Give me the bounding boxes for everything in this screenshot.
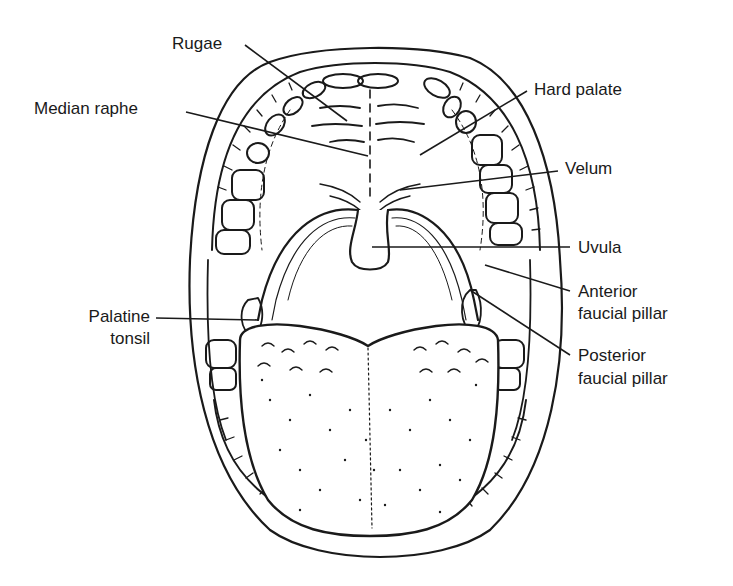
leader-anterior-pillar	[485, 265, 570, 291]
leader-hard-palate	[420, 91, 527, 155]
label-posterior-faucial-pillar-line1: Posterior	[578, 346, 646, 365]
label-rugae: Rugae	[172, 34, 222, 53]
leader-rugae	[245, 45, 347, 121]
label-palatine-tonsil-line2: tonsil	[60, 329, 150, 348]
leader-palatine-tonsil	[156, 318, 258, 320]
label-velum: Velum	[565, 159, 612, 178]
label-anterior-faucial-pillar-line1: Anterior	[578, 282, 638, 301]
oral-cavity-diagram: Rugae Median raphe Hard palate Velum Uvu…	[0, 0, 733, 586]
label-anterior-faucial-pillar-line2: faucial pillar	[578, 304, 668, 323]
label-palatine-tonsil-line1: Palatine	[60, 307, 150, 326]
label-posterior-faucial-pillar-line2: faucial pillar	[578, 369, 668, 388]
label-hard-palate: Hard palate	[534, 80, 622, 99]
rugae-lines	[312, 104, 424, 142]
label-uvula: Uvula	[578, 238, 621, 257]
tongue	[240, 324, 499, 536]
label-median-raphe: Median raphe	[34, 99, 138, 118]
uvula-shape	[350, 210, 389, 270]
leader-median-raphe	[186, 112, 368, 156]
